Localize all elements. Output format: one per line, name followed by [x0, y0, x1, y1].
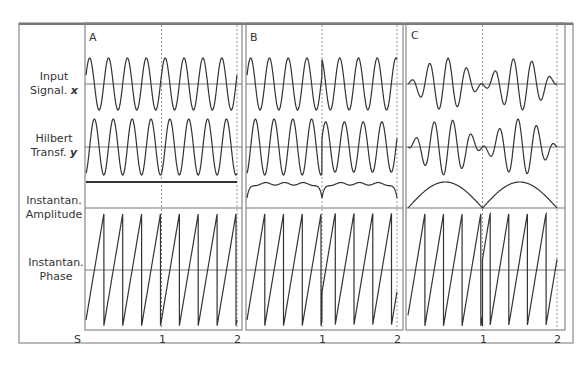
panel-label-a: A	[89, 31, 97, 44]
var-x: x	[71, 84, 78, 97]
row-label-hilbert: Hilbert Transf. y	[24, 132, 84, 160]
hilbert-transform-figure	[0, 0, 583, 368]
tick-b-1: 1	[319, 333, 326, 346]
tick-c-1: 1	[480, 333, 487, 346]
panel-label-c: C	[411, 29, 419, 42]
tick-c-2: 2	[554, 333, 561, 346]
row-label-amplitude: Instantan. Amplitude	[20, 194, 88, 222]
tick-a-2: 2	[234, 333, 241, 346]
tick-b-2: 2	[394, 333, 401, 346]
tick-a-1: 1	[159, 333, 166, 346]
row-label-phase: Instantan. Phase	[24, 256, 88, 284]
panel-label-b: B	[250, 31, 258, 44]
row-label-input-signal: Input Signal. x	[24, 70, 84, 98]
var-y: y	[70, 146, 77, 159]
panel-frames	[85, 23, 565, 330]
x-unit-label: S	[74, 333, 81, 346]
panel-frame-c	[406, 23, 565, 330]
